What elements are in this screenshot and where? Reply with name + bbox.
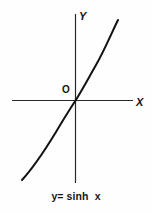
x-axis-label: X: [136, 97, 143, 108]
y-axis-label: Y: [79, 11, 86, 22]
sinh-function-figure: Y X O y= sinh x: [0, 0, 152, 213]
figure-caption: y= sinh x: [0, 190, 152, 202]
origin-label: O: [62, 85, 70, 95]
plot-canvas: [0, 0, 152, 213]
